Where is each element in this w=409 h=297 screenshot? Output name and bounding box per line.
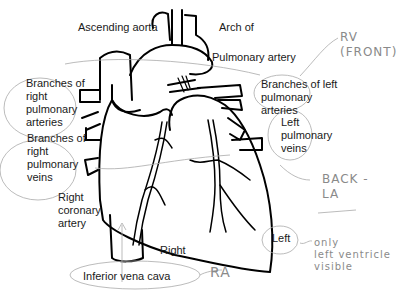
label-ascending-aorta: Ascending aorta <box>78 21 158 34</box>
annotation-only-left-visible: only left ventricle visible <box>314 237 391 273</box>
label-arch-of: Arch of <box>219 21 254 34</box>
label-branches-right-pulm-arteries: Branches of right pulmonary arteries <box>26 77 85 129</box>
label-left: Left <box>272 232 290 245</box>
label-right: Right <box>160 244 186 257</box>
label-pulmonary-artery: Pulmonary artery <box>212 51 296 64</box>
annotation-rv-front: RV (FRONT) <box>340 30 397 60</box>
label-inferior-vena-cava: Inferior vena cava <box>83 270 170 283</box>
label-left-pulmonary-veins: Left pulmonary veins <box>281 116 332 155</box>
label-right-coronary-artery: Right coronary artery <box>58 191 101 230</box>
annotation-back-la: BACK - LA <box>322 172 369 202</box>
annotation-ra: RA <box>210 265 231 280</box>
label-branches-left-pulm-arteries: Branches of left pulmonary arteries <box>261 78 337 117</box>
label-branches-right-pulm-veins: Branches of right pulmonary veins <box>27 132 86 184</box>
heart-diagram: Ascending aorta Arch of Pulmonary artery… <box>0 0 409 297</box>
